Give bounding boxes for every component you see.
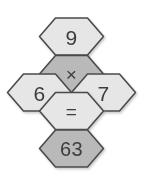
hexagon-puzzle-svg: 9×67=63 [0, 0, 143, 195]
hexagon-label-top: 9 [65, 26, 77, 49]
hexagon-label-left: 6 [33, 82, 45, 105]
hexagon-cell-bottom[interactable]: 63 [40, 130, 104, 167]
hexagon-puzzle-canvas: 9×67=63 [0, 0, 143, 195]
hexagon-label-center-equals: = [66, 101, 78, 122]
hexagon-label-right: 7 [97, 82, 109, 105]
hexagon-cell-group: 9×67=63 [8, 18, 136, 167]
hexagon-cell-top[interactable]: 9 [40, 18, 104, 55]
hexagon-label-bottom: 63 [60, 138, 83, 160]
hexagon-label-center-operator: × [66, 64, 78, 85]
